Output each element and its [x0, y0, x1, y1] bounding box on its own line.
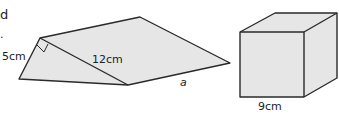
cut-text-2: . [0, 28, 4, 41]
length-label: a [180, 76, 187, 89]
side-label: 5cm [2, 50, 26, 63]
edge-label: 9cm [258, 100, 282, 113]
diagram: d . 5cm 12cm a 9cm [0, 0, 339, 115]
hypotenuse-label: 12cm [92, 53, 123, 66]
cut-text-1: d [0, 7, 8, 22]
triangular-prism: 5cm 12cm a [2, 17, 230, 89]
cube: 9cm [240, 13, 337, 113]
